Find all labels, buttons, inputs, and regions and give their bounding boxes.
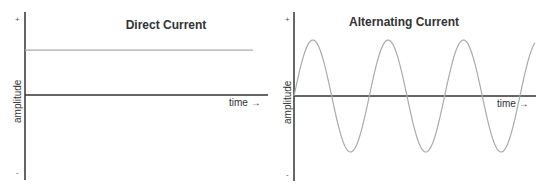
dc-title: Direct Current bbox=[126, 18, 207, 32]
ac-minus-marker: - bbox=[286, 170, 289, 179]
dc-y-label: amplitude bbox=[12, 79, 23, 123]
dc-x-label: time → bbox=[229, 97, 261, 108]
dc-chart: + - Direct Current time → amplitude bbox=[12, 12, 268, 180]
charts-canvas: + - Direct Current time → amplitude + - … bbox=[0, 0, 548, 186]
ac-chart: + - Alternating Current time → amplitude bbox=[282, 12, 536, 181]
ac-x-label: time → bbox=[497, 98, 529, 109]
dc-minus-marker: - bbox=[16, 168, 19, 177]
ac-plus-marker: + bbox=[285, 15, 290, 24]
dc-plus-marker: + bbox=[15, 15, 20, 24]
ac-title: Alternating Current bbox=[349, 15, 459, 29]
ac-y-label: amplitude bbox=[282, 80, 293, 124]
